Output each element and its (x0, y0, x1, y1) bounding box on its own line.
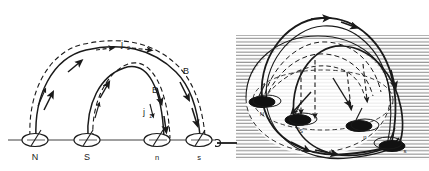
right-panel-canvas: N S n s (215, 0, 429, 171)
svg-text:1: 1 (149, 113, 152, 119)
current-line-j1-inner (93, 63, 170, 138)
footpoint-label-N: N (32, 152, 39, 162)
footpoint-3d-label-N: N (260, 111, 264, 117)
footpoint-label-n: n (155, 153, 159, 162)
footpoint-label-S: S (84, 152, 90, 162)
annotation-B-inner: B (152, 85, 158, 95)
footpoint-3d-label-s: s (404, 148, 407, 154)
svg-text:j: j (142, 107, 145, 117)
annotation-j1: j 1 (142, 107, 152, 119)
field-line-inner-loop (88, 67, 164, 138)
arrow-outer-ascending (44, 94, 52, 110)
arrow-inner-descending-lower (164, 116, 166, 130)
arrow-dashed-outer-ascending (38, 90, 45, 106)
svg-text:2: 2 (127, 45, 130, 51)
footpoint-3d-label-n: n (363, 134, 366, 140)
arrow-outer-apex-left (68, 62, 80, 72)
panel-two-dimensional-side-view: N S n s j 2 (0, 0, 215, 171)
arrow-inner-dashed-ascending (95, 104, 99, 118)
footpoint-n: n (144, 130, 170, 162)
figure-root: N S n s j 2 (0, 0, 429, 171)
arrow-tube-apex (311, 18, 327, 19)
svg-text:j: j (120, 39, 123, 49)
field-line-outer-loop (36, 47, 200, 138)
current-line-j2-outer (30, 41, 205, 136)
footpoint-3d-label-S: S (299, 128, 303, 134)
footpoint-S: S (74, 130, 100, 162)
left-axis-arrow (215, 140, 237, 147)
left-panel-canvas: N S n s j 2 (0, 0, 215, 171)
panel-three-dimensional-perspective-view: N S n s (215, 0, 429, 171)
footpoint-label-s: s (197, 153, 201, 162)
footpoint-N: N (22, 130, 48, 162)
annotation-B-outer: B (183, 66, 189, 76)
arrow-outer-descending (180, 82, 188, 98)
svg-text:B: B (152, 85, 158, 95)
svg-text:B: B (183, 66, 189, 76)
footpoint-s: s (186, 130, 212, 162)
